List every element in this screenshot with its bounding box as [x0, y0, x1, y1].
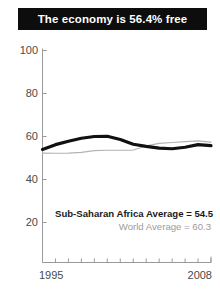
legend: Sub-Saharan Africa Average = 54.5 World … — [55, 207, 211, 233]
legend-africa-average: Sub-Saharan Africa Average = 54.5 — [55, 207, 211, 220]
ytick-100: 100 — [0, 45, 38, 56]
ytick-label: 100 — [4, 45, 38, 56]
ytick-label: 80 — [4, 88, 38, 99]
ytick-60: 60 — [0, 131, 38, 142]
series-group — [43, 136, 212, 153]
ytick-label: 40 — [4, 174, 38, 185]
ytick-80: 80 — [0, 88, 38, 99]
ytick-label: 60 — [4, 131, 38, 142]
xtick-label-start: 1995 — [39, 270, 63, 281]
ytick-label: 20 — [4, 217, 38, 228]
series-line-sub-saharan-africa — [43, 136, 212, 149]
xtick-label-end: 2008 — [188, 270, 212, 281]
legend-world-average: World Average = 60.3 — [55, 220, 211, 233]
ytick-40: 40 — [0, 174, 38, 185]
ytick-20: 20 — [0, 217, 38, 228]
chart-area: 100 80 60 40 20 1995 2008 Sub-Saharan Af… — [0, 0, 220, 300]
